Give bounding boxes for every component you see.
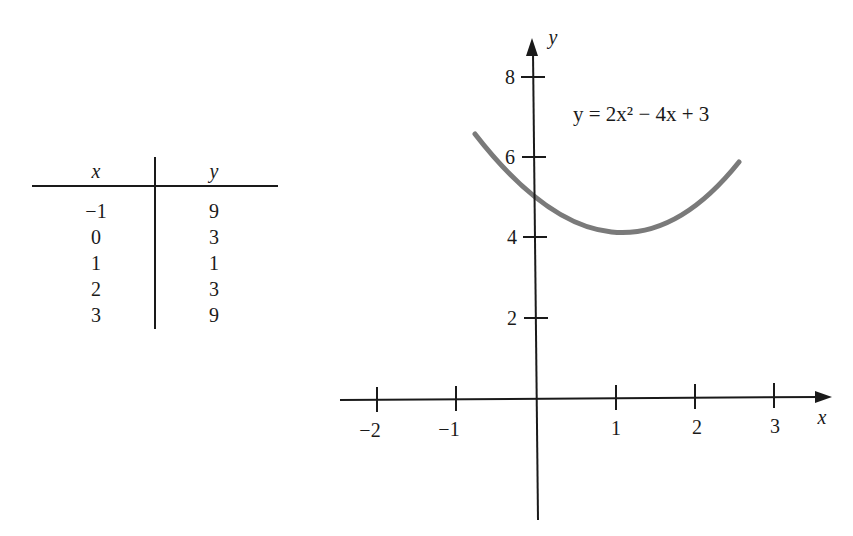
x-tick-label: −2 (359, 419, 380, 441)
x-tick-label: 3 (770, 415, 780, 437)
figure: x y −1 9 0 3 1 1 2 3 3 9 −2 −1 1 2 3 x (0, 0, 853, 536)
y-axis-arrow-icon (526, 38, 538, 56)
x-axis: −2 −1 1 2 3 x (340, 383, 832, 441)
x-axis-label: x (817, 406, 827, 428)
x-tick-label: −1 (438, 418, 459, 440)
y-tick-label: 8 (505, 66, 515, 88)
x-tick-label: 1 (611, 417, 621, 439)
y-tick-label: 6 (505, 146, 515, 168)
y-axis-label: y (547, 26, 558, 49)
y-tick-label: 2 (507, 307, 517, 329)
parabola-graph: −2 −1 1 2 3 x 8 6 4 2 y y = 2x² − 4x + 3 (0, 0, 853, 536)
x-tick-label: 2 (692, 416, 702, 438)
y-tick-label: 4 (507, 226, 517, 248)
x-axis-arrow-icon (815, 391, 832, 403)
equation-label: y = 2x² − 4x + 3 (573, 102, 709, 126)
y-axis: 8 6 4 2 y (505, 26, 558, 520)
